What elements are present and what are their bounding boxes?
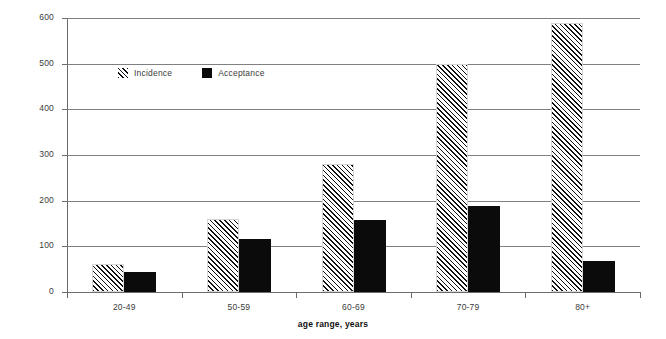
x-tick-label: 50-59	[182, 303, 297, 312]
y-tick-label: 400	[8, 104, 54, 113]
x-tick-label: 80+	[525, 303, 640, 312]
x-tick-label: 70-79	[411, 303, 526, 312]
y-tick-label: 300	[8, 150, 54, 159]
bar-acceptance-50-59	[239, 239, 271, 292]
solid-square-swatch-icon	[202, 68, 212, 78]
bar-incidence-60-69	[322, 164, 354, 292]
bar-acceptance-70-79	[468, 206, 500, 292]
bar-chart: per million population 01002003004005006…	[0, 0, 666, 339]
y-tick-label: 200	[8, 196, 54, 205]
bar-acceptance-80+	[583, 261, 615, 293]
y-tick-label: 500	[8, 59, 54, 68]
x-tick-mark	[67, 292, 68, 298]
bar-incidence-70-79	[436, 64, 468, 292]
x-tick-label: 60-69	[296, 303, 411, 312]
x-axis-title: age range, years	[0, 319, 666, 329]
plot-area	[67, 18, 640, 292]
x-tick-mark	[525, 292, 526, 298]
legend-entry-acceptance: Acceptance	[202, 68, 264, 78]
y-tick-label: 100	[8, 241, 54, 250]
hatched-square-swatch-icon	[118, 68, 128, 78]
x-tick-mark	[296, 292, 297, 298]
bar-incidence-80+	[551, 23, 583, 292]
x-tick-mark	[182, 292, 183, 298]
bar-acceptance-60-69	[354, 220, 386, 292]
x-tick-label: 20-49	[67, 303, 182, 312]
legend-label-acceptance: Acceptance	[218, 68, 264, 78]
gridline	[67, 18, 640, 19]
bar-incidence-20-49	[92, 264, 124, 292]
legend-label-incidence: Incidence	[134, 68, 172, 78]
y-tick-label: 600	[8, 13, 54, 22]
y-tick-label: 0	[8, 287, 54, 296]
bar-acceptance-20-49	[124, 272, 156, 292]
legend-entry-incidence: Incidence	[118, 68, 172, 78]
x-tick-mark	[640, 292, 641, 298]
chart-legend: Incidence Acceptance	[118, 68, 265, 78]
bar-incidence-50-59	[207, 219, 239, 292]
x-tick-mark	[411, 292, 412, 298]
gridline	[67, 292, 640, 293]
